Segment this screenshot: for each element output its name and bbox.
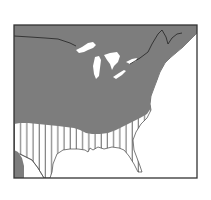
range-map [0,0,211,200]
